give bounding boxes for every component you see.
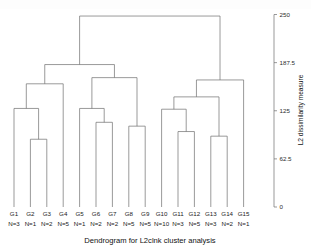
leaf-count-g13: N=3 bbox=[205, 220, 217, 227]
leaf-count-g9: N=5 bbox=[139, 220, 151, 227]
leaf-label-g12: G12 bbox=[189, 210, 201, 217]
leaf-count-g11: N=3 bbox=[172, 220, 184, 227]
y-axis: 250187.512562.50 bbox=[274, 11, 296, 211]
leaf-label-g14: G14 bbox=[221, 210, 233, 217]
dendrogram-tree bbox=[14, 16, 244, 207]
leaf-label-g15: G15 bbox=[238, 210, 250, 217]
leaf-count-g12: N=5 bbox=[189, 220, 201, 227]
leaf-count-g5: N=1 bbox=[74, 220, 86, 227]
dendrogram-plot: 250187.512562.50 G1N=3G2N=1G3N=2G4N=5G5N… bbox=[0, 0, 311, 248]
leaf-count-g6: N=2 bbox=[90, 220, 102, 227]
leaf-count-g1: N=3 bbox=[8, 220, 20, 227]
leaf-count-g14: N=2 bbox=[221, 220, 233, 227]
leaf-label-g7: G7 bbox=[108, 210, 117, 217]
leaf-count-g15: N=1 bbox=[238, 220, 250, 227]
leaf-label-g10: G10 bbox=[156, 210, 168, 217]
leaf-count-g10: N=10 bbox=[154, 220, 170, 227]
leaf-count-g4: N=5 bbox=[57, 220, 69, 227]
leaf-label-g3: G3 bbox=[43, 210, 52, 217]
leaf-label-g2: G2 bbox=[26, 210, 35, 217]
leaf-label-g6: G6 bbox=[92, 210, 101, 217]
leaf-label-g1: G1 bbox=[10, 210, 19, 217]
leaf-label-g9: G9 bbox=[141, 210, 150, 217]
y-axis-tick-label: 250 bbox=[280, 11, 291, 18]
x-axis-title: Dendrogram for L2clnk cluster analysis bbox=[84, 236, 215, 245]
leaf-count-g2: N=1 bbox=[25, 220, 37, 227]
y-axis-tick-label: 62.5 bbox=[280, 155, 293, 162]
y-axis-title: L2 dissimilarity measure bbox=[297, 74, 305, 145]
leaf-count-g7: N=2 bbox=[107, 220, 119, 227]
leaf-count-g8: N=5 bbox=[123, 220, 135, 227]
leaf-label-g5: G5 bbox=[75, 210, 84, 217]
leaf-label-g4: G4 bbox=[59, 210, 68, 217]
dendrogram-figure: 250187.512562.50 G1N=3G2N=1G3N=2G4N=5G5N… bbox=[0, 0, 311, 248]
leaf-label-g8: G8 bbox=[125, 210, 134, 217]
leaf-count-g3: N=2 bbox=[41, 220, 53, 227]
y-axis-tick-label: 125 bbox=[280, 107, 291, 114]
leaf-label-g13: G13 bbox=[205, 210, 217, 217]
leaf-labels: G1N=3G2N=1G3N=2G4N=5G5N=1G6N=2G7N=2G8N=5… bbox=[8, 210, 250, 227]
y-axis-tick-label: 187.5 bbox=[280, 59, 296, 66]
y-axis-tick-label: 0 bbox=[280, 203, 284, 210]
leaf-label-g11: G11 bbox=[172, 210, 184, 217]
